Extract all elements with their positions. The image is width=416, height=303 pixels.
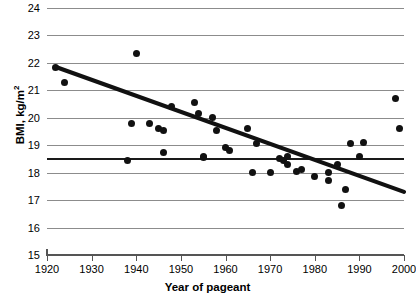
x-tick [92, 255, 93, 261]
y-tick-label: 16 [14, 222, 40, 234]
y-axis-title-text: BMI, kg/m [14, 90, 26, 144]
y-tick-label: 24 [14, 2, 40, 14]
x-tick [47, 255, 48, 261]
x-tick-label: 1970 [258, 263, 282, 275]
trend-line [47, 8, 404, 255]
y-tick-label: 15 [14, 249, 40, 261]
x-tick-label: 1980 [303, 263, 327, 275]
x-tick-label: 1960 [213, 263, 237, 275]
x-tick [404, 255, 405, 261]
y-axis-title: BMI, kg/m2 [12, 55, 26, 175]
y-tick-label: 17 [14, 194, 40, 206]
x-tick-label: 1950 [169, 263, 193, 275]
x-tick [181, 255, 182, 261]
x-tick-label: 1930 [79, 263, 103, 275]
x-tick [136, 255, 137, 261]
x-tick-label: 1990 [347, 263, 371, 275]
x-tick [226, 255, 227, 261]
x-tick-label: 1920 [35, 263, 59, 275]
x-tick [270, 255, 271, 261]
x-axis-title: Year of pageant [0, 281, 415, 293]
x-tick [315, 255, 316, 261]
x-tick [359, 255, 360, 261]
x-tick-label: 2000 [392, 263, 416, 275]
y-axis-title-exponent: 2 [12, 86, 21, 90]
x-tick-label: 1940 [124, 263, 148, 275]
plot-area [47, 8, 404, 255]
y-tick-label: 23 [14, 29, 40, 41]
